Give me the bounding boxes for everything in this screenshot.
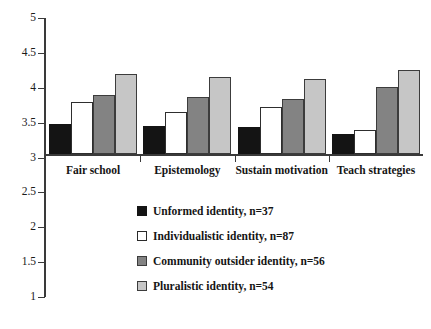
bar xyxy=(332,134,354,154)
bar xyxy=(71,102,93,154)
y-axis-tick xyxy=(38,262,45,263)
bar xyxy=(282,99,304,154)
y-axis-tick-label: 2.5 xyxy=(0,186,36,197)
bar xyxy=(209,77,231,154)
y-axis-tick xyxy=(38,158,45,159)
legend-item: Community outsider identity, n=56 xyxy=(137,250,397,272)
y-axis-tick-label: 1.5 xyxy=(0,256,36,267)
plot-area xyxy=(46,18,423,154)
category-label: Epistemology xyxy=(140,164,234,177)
legend-swatch-icon xyxy=(137,231,147,241)
x-axis-tick xyxy=(235,155,236,162)
bar xyxy=(187,97,209,154)
y-axis-tick xyxy=(38,88,45,89)
legend-item: Unformed identity, n=37 xyxy=(137,200,397,222)
y-axis-tick-label: 4.5 xyxy=(0,47,36,58)
legend-label: Pluralistic identity, n=54 xyxy=(153,280,274,292)
y-axis-tick-label: 3 xyxy=(0,152,36,163)
bar xyxy=(376,87,398,154)
y-axis-tick-label: 2 xyxy=(0,221,36,232)
y-axis-tick-label: 5 xyxy=(0,12,36,23)
y-axis-tick-label: 4 xyxy=(0,82,36,93)
bar xyxy=(165,112,187,154)
x-axis-tick xyxy=(329,155,330,162)
x-axis-line xyxy=(44,154,423,156)
category-label: Fair school xyxy=(46,164,140,177)
bar xyxy=(260,107,282,154)
y-axis-tick-label: 1 xyxy=(0,291,36,302)
legend-swatch-icon xyxy=(137,281,147,291)
y-axis-tick xyxy=(38,123,45,124)
category-label: Sustain motivation xyxy=(235,164,329,177)
legend-label: Individualistic identity, n=87 xyxy=(153,230,294,242)
legend-label: Unformed identity, n=37 xyxy=(153,205,274,217)
bar xyxy=(49,124,71,154)
chart-legend: Unformed identity, n=37Individualistic i… xyxy=(137,200,397,300)
legend-swatch-icon xyxy=(137,206,147,216)
y-axis-tick xyxy=(38,192,45,193)
legend-label: Community outsider identity, n=56 xyxy=(153,255,325,267)
category-label: Teach strategies xyxy=(329,164,423,177)
bar xyxy=(115,74,137,154)
bar xyxy=(143,126,165,154)
bar xyxy=(304,79,326,154)
bar xyxy=(238,127,260,154)
bar-chart: 54.543.532.521.51 Fair schoolEpistemolog… xyxy=(0,0,431,329)
legend-swatch-icon xyxy=(137,256,147,266)
y-axis-tick xyxy=(38,297,45,298)
bar xyxy=(93,95,115,154)
y-axis-tick xyxy=(38,227,45,228)
y-axis-tick xyxy=(38,53,45,54)
y-axis-tick-label: 3.5 xyxy=(0,117,36,128)
legend-item: Individualistic identity, n=87 xyxy=(137,225,397,247)
bar xyxy=(398,70,420,154)
bar xyxy=(354,130,376,154)
x-axis-tick xyxy=(140,155,141,162)
y-axis-tick xyxy=(38,18,45,19)
legend-item: Pluralistic identity, n=54 xyxy=(137,275,397,297)
